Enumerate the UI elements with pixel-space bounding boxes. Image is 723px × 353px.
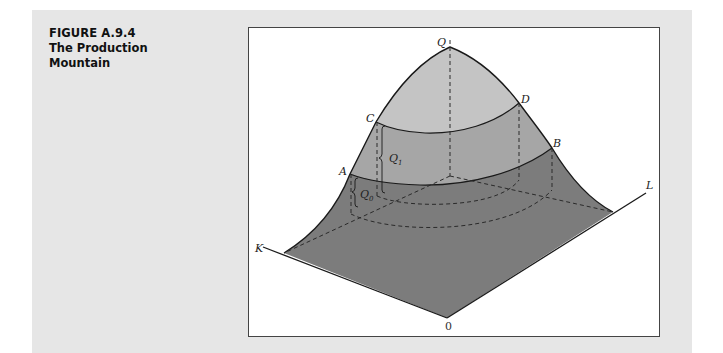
label-k-axis: K bbox=[254, 242, 264, 255]
label-point-b: B bbox=[552, 137, 561, 150]
label-point-c: C bbox=[366, 112, 375, 125]
label-point-d: D bbox=[520, 93, 530, 106]
label-peak-q: Q bbox=[437, 36, 446, 49]
label-l-axis: L bbox=[645, 179, 653, 192]
production-mountain-diagram: Q C D A B Q1 Q0 K L 0 bbox=[0, 0, 723, 353]
label-point-a: A bbox=[338, 165, 347, 178]
label-origin: 0 bbox=[445, 320, 452, 333]
